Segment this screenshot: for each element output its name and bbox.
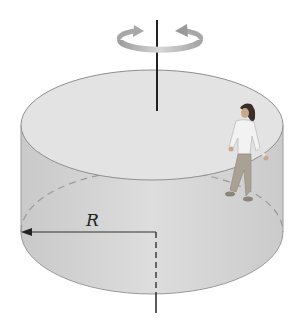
rotation-arrow-icon [119,24,201,50]
radius-label: R [86,210,99,230]
rotating-cylinder-diagram [0,0,300,334]
cylinder [21,70,283,294]
